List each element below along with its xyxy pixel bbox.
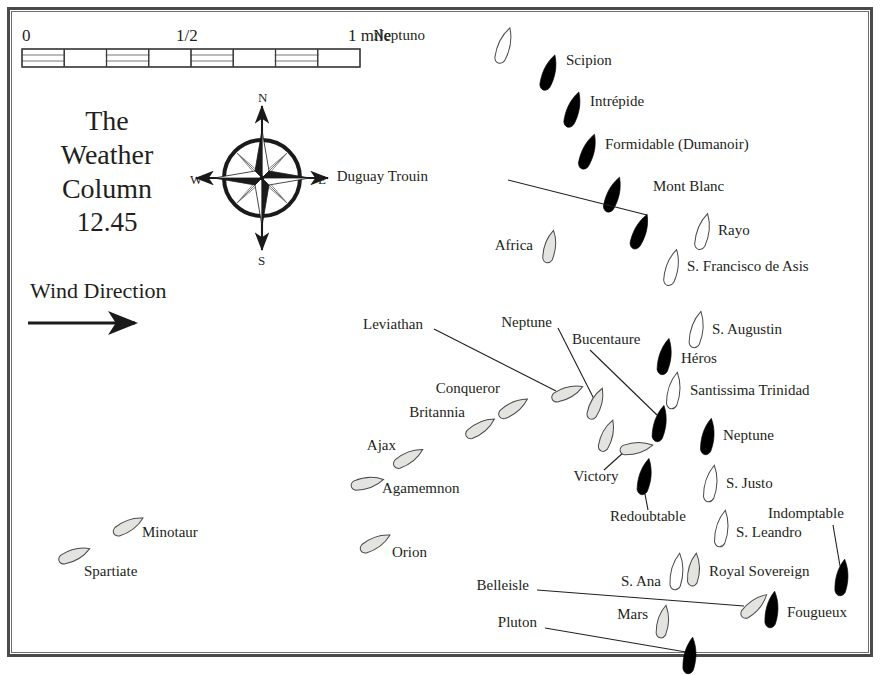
ship-marker[interactable] [538, 53, 561, 92]
ship-marker[interactable] [662, 248, 683, 287]
weather-column-title: The Weather Column [32, 104, 182, 206]
leader-line [508, 180, 647, 215]
scale-label-end: 1 mile [348, 26, 391, 46]
compass-label-south: S [258, 253, 265, 269]
ship-label: Africa [495, 237, 534, 253]
ship-label: Britannia [409, 404, 465, 420]
ship-label: Scipion [566, 52, 612, 68]
time-stamp: 12.45 [32, 206, 182, 239]
ship-hull-icon [538, 53, 561, 92]
leader-line [537, 590, 744, 606]
ship-label: Formidable (Dumanoir) [605, 136, 749, 153]
ship-label: Rayo [718, 222, 750, 238]
ship-marker[interactable] [668, 552, 685, 590]
ship-marker[interactable] [576, 132, 600, 171]
compass-label-west: W [190, 172, 202, 188]
ship-hull-icon [111, 513, 145, 538]
ship-label: Pluton [498, 614, 538, 630]
ship-marker[interactable] [596, 418, 618, 453]
ship-hull-icon [687, 310, 707, 349]
wind-direction-label: Wind Direction [30, 278, 167, 304]
ship-label: Spartiate [84, 563, 138, 579]
ship-hull-icon [662, 248, 683, 287]
ship-marker[interactable] [496, 394, 530, 421]
ship-hull-icon [668, 552, 685, 590]
compass-rose-icon [196, 106, 328, 250]
ship-hull-icon [635, 457, 655, 496]
ship-hull-icon [350, 474, 385, 492]
ship-marker[interactable] [111, 513, 145, 538]
ship-label: S. Augustin [712, 321, 783, 337]
map-canvas: NeptunoScipionIntrépideFormidable (Duman… [0, 0, 889, 675]
ship-hull-icon [391, 445, 425, 471]
title-line-2: Weather [32, 138, 182, 172]
ship-marker[interactable] [702, 464, 720, 503]
ship-marker[interactable] [391, 445, 425, 471]
ship-marker[interactable] [681, 636, 698, 674]
ship-hull-icon [493, 26, 516, 65]
ship-hull-icon [463, 414, 497, 441]
ship-label: Neptune [723, 427, 774, 443]
ship-hull-icon [681, 636, 698, 674]
ship-marker[interactable] [713, 509, 731, 548]
ship-marker[interactable] [350, 474, 385, 492]
ship-marker[interactable] [463, 414, 497, 441]
ship-label: Duguay Trouin [337, 168, 429, 184]
ship-label: Leviathan [363, 316, 423, 332]
ship-label: Belleisle [477, 577, 530, 593]
ship-hull-icon [833, 558, 850, 596]
ship-hull-icon [541, 229, 559, 264]
leader-line [833, 525, 840, 566]
ship-marker[interactable] [699, 417, 717, 456]
ship-marker[interactable] [655, 337, 675, 376]
ship-label: Neptune [501, 314, 552, 330]
ship-marker[interactable] [550, 381, 585, 404]
leader-line [604, 452, 624, 470]
title-line-1: The [32, 104, 182, 138]
compass-label-east: E [318, 172, 326, 188]
ship-label: Intrépide [590, 93, 644, 109]
scale-bar [22, 49, 360, 67]
ship-marker[interactable] [655, 604, 672, 639]
ship-marker[interactable] [693, 212, 714, 251]
scale-label-middle: 1/2 [176, 26, 198, 46]
ship-label: Agamemnon [382, 480, 460, 496]
ship-hull-icon [596, 418, 618, 453]
compass-label-north: N [258, 90, 267, 106]
ship-label: S. Leandro [736, 524, 802, 540]
ship-label: Héros [681, 350, 717, 366]
ship-label: Redoubtable [610, 508, 686, 524]
ship-hull-icon [628, 212, 653, 251]
ship-marker[interactable] [833, 558, 850, 596]
ship-hull-icon [619, 439, 654, 456]
ship-marker[interactable] [686, 552, 702, 586]
ship-hull-icon [655, 337, 675, 376]
ship-marker[interactable] [687, 310, 707, 349]
ship-label: Royal Sovereign [709, 563, 810, 579]
ship-marker[interactable] [650, 404, 670, 443]
ship-hull-icon [713, 509, 731, 548]
ship-label: Victory [574, 468, 619, 484]
ship-marker[interactable] [635, 457, 655, 496]
ship-hull-icon [496, 394, 530, 421]
ship-hull-icon [655, 604, 672, 639]
trafalgar-battle-map: NeptunoScipionIntrépideFormidable (Duman… [0, 0, 889, 675]
ship-label: Indomptable [768, 505, 844, 521]
ship-marker[interactable] [665, 371, 683, 410]
ship-label: Orion [392, 544, 427, 560]
ship-marker[interactable] [628, 212, 653, 251]
ship-hull-icon [665, 371, 683, 410]
ship-hull-icon [686, 552, 702, 586]
ship-marker[interactable] [562, 90, 585, 129]
ship-label: Conqueror [436, 380, 500, 396]
ship-label: Santissima Trinidad [690, 382, 810, 398]
ship-marker[interactable] [541, 229, 559, 264]
ship-hull-icon [699, 417, 717, 456]
ship-marker[interactable] [358, 530, 392, 555]
ship-marker[interactable] [619, 439, 654, 456]
ship-hull-icon [585, 386, 608, 421]
ship-hull-icon [550, 381, 585, 404]
ship-marker[interactable] [493, 26, 516, 65]
ship-hull-icon [693, 212, 714, 251]
ship-marker[interactable] [585, 386, 608, 421]
